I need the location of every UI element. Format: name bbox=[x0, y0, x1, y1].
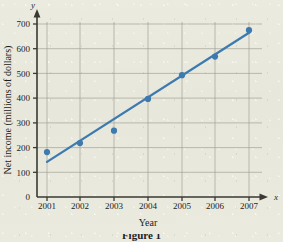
x-tick-label-2007: 2007 bbox=[240, 201, 259, 211]
x-tick-label-2003: 2003 bbox=[105, 201, 124, 211]
data-point-2002 bbox=[77, 140, 83, 146]
y-axis-variable-letter: y bbox=[30, 0, 35, 10]
vertical-gridlines bbox=[47, 22, 249, 197]
y-tick-label-600: 600 bbox=[17, 44, 31, 54]
x-tick-label-2001: 2001 bbox=[38, 201, 56, 211]
x-tick-label-2005: 2005 bbox=[173, 201, 192, 211]
x-axis-variable-letter: x bbox=[273, 192, 278, 202]
data-point-2001 bbox=[44, 149, 50, 155]
y-tick-label-100: 100 bbox=[17, 168, 31, 178]
x-axis-arrowhead bbox=[260, 194, 269, 201]
y-tick-label-700: 700 bbox=[17, 19, 31, 29]
y-tick-label-200: 200 bbox=[17, 143, 31, 153]
x-tick-label-2006: 2006 bbox=[206, 201, 225, 211]
y-axis bbox=[34, 9, 41, 197]
data-point-2004 bbox=[145, 96, 151, 102]
y-axis-arrowhead bbox=[34, 9, 41, 18]
y-tick-label-500: 500 bbox=[17, 69, 31, 79]
y-tick-label-300: 300 bbox=[17, 118, 31, 128]
y-tick-label-400: 400 bbox=[17, 93, 31, 103]
x-axis bbox=[37, 194, 268, 201]
data-point-2005 bbox=[179, 72, 185, 78]
y-tick-labels: 700 600 500 400 300 200 100 0 bbox=[17, 19, 31, 202]
x-tick-labels: 2001 2002 2003 2004 2005 2006 2007 bbox=[38, 201, 259, 211]
x-tick-label-2002: 2002 bbox=[71, 201, 89, 211]
data-point-2007 bbox=[246, 27, 252, 33]
y-axis-title: Net income (millions of dollars) bbox=[2, 46, 14, 175]
data-point-2006 bbox=[212, 54, 218, 60]
x-axis-title: Year bbox=[139, 217, 158, 228]
figure-container: 700 600 500 400 300 200 100 0 2001 2002 … bbox=[0, 0, 283, 242]
x-tick-label-2004: 2004 bbox=[139, 201, 158, 211]
scatter-plot: 700 600 500 400 300 200 100 0 2001 2002 … bbox=[0, 0, 283, 242]
y-tick-label-0: 0 bbox=[26, 192, 31, 202]
data-point-2003 bbox=[111, 128, 117, 134]
figure-caption-clip: Figure 1 bbox=[0, 234, 283, 242]
figure-caption: Figure 1 bbox=[0, 234, 283, 241]
